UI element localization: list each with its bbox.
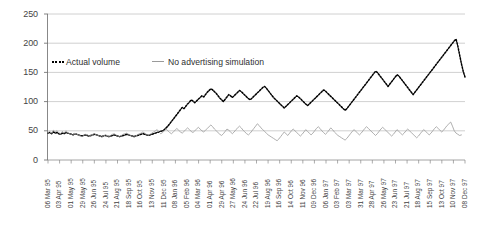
x-axis-tick-label: 21 Aug 95: [114, 164, 120, 208]
x-axis-tick-label: 03 Mar 97: [346, 164, 352, 208]
x-axis-tick-label: 18 Sep 95: [126, 164, 132, 208]
x-axis-tick-label: 22 Jul 96: [253, 164, 259, 208]
x-axis-tick-label: 01 May 95: [68, 164, 74, 208]
x-axis-tick-label: 09 Dec 96: [311, 164, 317, 208]
y-axis-tick-label: 100: [8, 97, 38, 106]
x-axis-tick-label: 27 May 96: [230, 164, 236, 208]
x-axis-tick-label: 06 Jan 97: [323, 164, 329, 208]
y-axis-tick-label: 250: [8, 10, 38, 19]
x-axis-tick-label: 16 Oct 95: [137, 164, 143, 208]
x-axis-tick-label: 26 Jun 95: [91, 164, 97, 208]
x-axis-tick-label: 31 Mar 97: [358, 164, 364, 208]
x-axis-tick-label: 03 Apr 95: [56, 164, 62, 208]
x-axis-tick-label: 23 Jun 97: [392, 164, 398, 208]
x-axis-ticks: [48, 160, 465, 164]
legend-label-actual-volume: Actual volume: [66, 57, 120, 67]
series-line-no-advertising-simulation: [48, 122, 461, 141]
x-axis-tick-label: 21 Jul 97: [404, 164, 410, 208]
legend-swatch-actual-volume: [52, 61, 64, 63]
legend-swatch-no-advertising-simulation: [152, 61, 164, 62]
x-axis-tick-label: 04 Mar 96: [195, 164, 201, 208]
x-axis-tick-label: 11 Nov 96: [300, 164, 306, 208]
x-axis-tick-label: 24 Jun 96: [242, 164, 248, 208]
x-axis-tick-label: 03 Feb 97: [334, 164, 340, 208]
x-axis-tick-label: 10 Nov 97: [450, 164, 456, 208]
gridlines: [48, 14, 465, 160]
axis-lines: [44, 14, 465, 164]
x-axis-tick-label: 29 Apr 96: [219, 164, 225, 208]
x-axis-tick-label: 15 Sep 97: [427, 164, 433, 208]
series-line-actual-volume: [48, 39, 465, 137]
x-axis-tick-label: 06 Mar 95: [45, 164, 51, 208]
y-axis-tick-label: 150: [8, 68, 38, 77]
x-axis-tick-label: 19 Aug 96: [265, 164, 271, 208]
x-axis-tick-label: 28 Apr 97: [369, 164, 375, 208]
x-axis-tick-label: 01 Apr 96: [207, 164, 213, 208]
x-axis-tick-label: 24 Jul 95: [103, 164, 109, 208]
x-axis-tick-label: 05 Feb 96: [184, 164, 190, 208]
data-series-group: [48, 39, 465, 141]
x-axis-tick-label: 18 Aug 97: [415, 164, 421, 208]
y-axis-tick-label: 200: [8, 39, 38, 48]
x-axis-tick-label: 14 Oct 96: [288, 164, 294, 208]
x-axis-tick-label: 29 May 95: [80, 164, 86, 208]
x-axis-tick-label: 08 Jan 96: [172, 164, 178, 208]
line-chart: 250200150100500 06 Mar 9503 Apr 9501 May…: [0, 0, 484, 230]
x-axis-tick-label: 16 Sep 96: [276, 164, 282, 208]
x-axis-tick-label: 08 Dec 97: [462, 164, 468, 208]
legend-label-no-advertising-simulation: No advertising simulation: [168, 57, 264, 67]
x-axis-tick-label: 11 Dec 95: [161, 164, 167, 208]
y-axis-tick-label: 0: [8, 156, 38, 165]
x-axis-tick-label: 26 May 97: [381, 164, 387, 208]
x-axis-tick-label: 13 Oct 97: [439, 164, 445, 208]
y-axis-tick-label: 50: [8, 126, 38, 135]
x-axis-tick-label: 13 Nov 95: [149, 164, 155, 208]
